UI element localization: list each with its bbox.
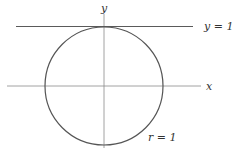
- circle-diagram: y x y = 1 r = 1: [0, 0, 238, 150]
- tangent-line-label: y = 1: [203, 20, 233, 33]
- x-axis-label: x: [206, 80, 213, 93]
- radius-label: r = 1: [148, 131, 176, 144]
- y-axis-label: y: [100, 2, 108, 15]
